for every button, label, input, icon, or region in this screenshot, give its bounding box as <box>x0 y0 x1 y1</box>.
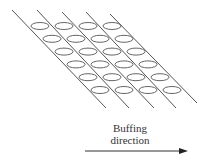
arrow-head-icon <box>179 148 188 154</box>
molecule-ellipse <box>163 87 181 94</box>
molecule-ellipse <box>115 87 133 94</box>
buffing-direction-arrow <box>85 148 188 154</box>
molecule-ellipse <box>79 23 97 30</box>
molecule-ellipse <box>55 48 73 55</box>
molecule-ellipse <box>31 23 49 30</box>
fiber-line-5 <box>110 14 197 103</box>
fiber-line-2 <box>37 10 129 108</box>
molecule-ellipse <box>127 74 145 81</box>
label-buffing: Buffing <box>113 122 148 134</box>
molecule-ellipse <box>115 61 133 68</box>
molecule-ellipse <box>103 48 121 55</box>
molecule-ellipse <box>91 87 109 94</box>
molecule-ellipse <box>91 35 109 42</box>
molecule-ellipse <box>127 48 145 55</box>
molecule-ellipse <box>103 23 121 30</box>
label-direction: direction <box>110 134 150 146</box>
molecule-ellipse <box>103 74 121 81</box>
molecule-ellipse <box>115 35 133 42</box>
molecule-ellipse <box>79 48 97 55</box>
molecule-ellipse <box>67 61 85 68</box>
fiber-line-1 <box>12 10 106 108</box>
molecule-ellipse <box>151 74 169 81</box>
molecule-ellipse <box>79 74 97 81</box>
molecule-ellipse <box>43 35 61 42</box>
molecule-ellipse <box>55 23 73 30</box>
molecule-ellipse <box>139 61 157 68</box>
molecule-ellipse <box>139 87 157 94</box>
fiber-line-3 <box>62 12 154 108</box>
molecule-ellipse <box>67 35 85 42</box>
molecule-ellipse <box>91 61 109 68</box>
buffing-diagram: Buffing direction <box>0 0 205 162</box>
